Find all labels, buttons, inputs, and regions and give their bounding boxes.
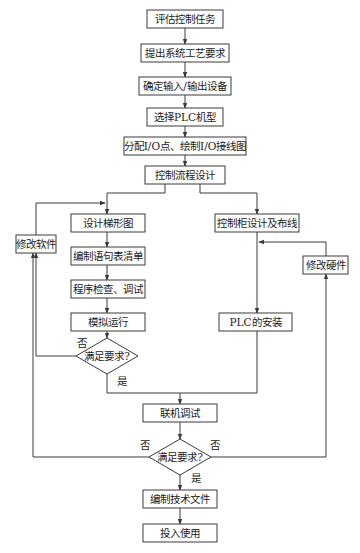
yes-label: 是	[191, 472, 202, 484]
process-box-n12: 修改软件	[16, 235, 56, 253]
process-box-n6: 控制流程设计	[145, 166, 225, 184]
node-label: 投入使用	[160, 527, 200, 539]
process-box-n4: 选择PLC机型	[147, 108, 223, 126]
process-box-n15: PLC的安装	[219, 313, 292, 331]
node-label: 联机调试	[160, 407, 201, 419]
node-label: 满足要求?	[84, 350, 130, 362]
node-label: 选择PLC机型	[154, 111, 216, 123]
flowchart-canvas: 评估控制任务提出系统工艺要求确定输入/输出设备选择PLC机型分配I/O点、绘制I…	[0, 0, 360, 553]
node-label: 设计梯形图	[83, 217, 133, 229]
process-box-n18: 编制技术文件	[143, 490, 217, 508]
connector-n14-to-n13	[259, 242, 326, 256]
no-label: 否	[140, 439, 151, 451]
node-label: 修改软件	[16, 238, 56, 250]
node-label: 提出系统工艺要求	[145, 47, 226, 59]
node-label: PLC的安装	[229, 316, 282, 328]
node-label: 编制技术文件	[150, 493, 210, 505]
process-box-n19: 投入使用	[143, 524, 217, 542]
process-box-n16: 联机调试	[143, 404, 217, 422]
process-box-n13: 控制柜设计及布线	[215, 214, 299, 232]
node-label: 分配I/O点、绘制I/O接线图	[124, 140, 247, 152]
connector-n6-to-n7	[107, 184, 165, 214]
no-label: 否	[77, 337, 88, 349]
node-label: 模拟运行	[88, 316, 129, 328]
process-box-n14: 修改硬件	[303, 256, 348, 274]
process-box-n3: 确定输入/输出设备	[139, 77, 231, 95]
node-label: 控制柜设计及布线	[217, 217, 298, 229]
node-label: 控制流程设计	[155, 169, 216, 181]
process-box-n9: 程序检查、调试	[71, 280, 145, 298]
process-box-n10: 模拟运行	[71, 313, 145, 331]
decision-diamond-n17: 满足要求?	[149, 439, 211, 475]
connector-n15-to-join	[180, 331, 257, 393]
node-label: 程序检查、调试	[73, 283, 144, 295]
node-label: 满足要求?	[157, 451, 203, 463]
node-label: 修改硬件	[306, 259, 346, 271]
node-label: 编制语句表清单	[73, 250, 143, 262]
process-box-n1: 评估控制任务	[147, 10, 223, 28]
node-label: 评估控制任务	[155, 13, 216, 25]
yes-label: 是	[117, 375, 128, 387]
process-box-n5: 分配I/O点、绘制I/O接线图	[124, 137, 247, 155]
process-box-n7: 设计梯形图	[71, 214, 145, 232]
flowchart-nodes: 评估控制任务提出系统工艺要求确定输入/输出设备选择PLC机型分配I/O点、绘制I…	[16, 10, 348, 542]
connector-n11-to-n12	[36, 253, 76, 356]
process-box-n8: 编制语句表清单	[71, 247, 145, 265]
no-label: 否	[210, 439, 221, 451]
connector-n6-to-n13	[200, 184, 257, 214]
process-box-n2: 提出系统工艺要求	[141, 44, 229, 62]
connector-n17-to-n14	[211, 274, 326, 457]
node-label: 确定输入/输出设备	[143, 80, 228, 92]
